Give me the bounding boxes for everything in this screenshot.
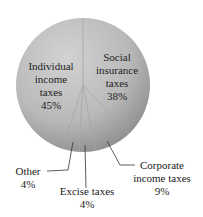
label-line: Other [15,165,40,177]
label-line: Social [103,51,131,63]
label-value: 4% [80,198,95,210]
label-value: 45% [41,99,61,111]
label-line: income taxes [133,172,191,184]
label-other: Other 4% [15,165,40,190]
label-line: taxes [106,77,129,89]
label-value: 38% [107,90,127,102]
label-line: income [35,73,67,85]
label-line: Excise taxes [60,185,115,197]
label-corporate: Corporate income taxes 9% [133,159,191,197]
label-value: 9% [155,185,170,197]
label-excise: Excise taxes 4% [60,185,115,210]
label-line: taxes [40,86,63,98]
label-line: Corporate [140,159,184,171]
label-line: Individual [28,60,73,72]
label-line: insurance [96,64,138,76]
pie-chart: Social insurance taxes 38% Individual in… [0,0,203,217]
label-value: 4% [21,178,36,190]
